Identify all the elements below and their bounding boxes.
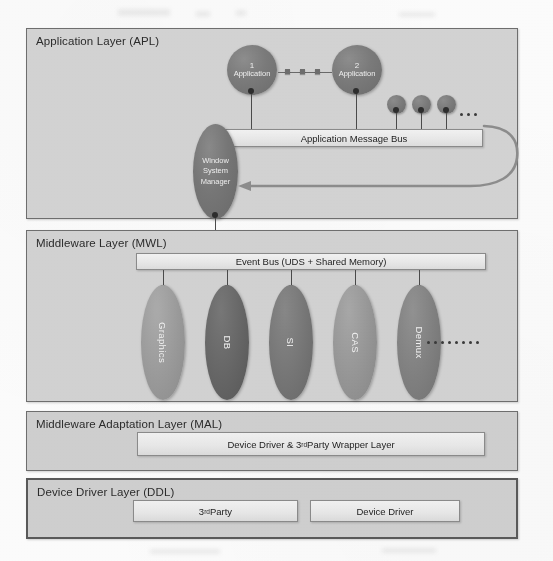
scan-artifact-smudge [382,548,436,553]
middleware-component-cas[interactable]: CAS [333,285,377,400]
connector-node-dot [212,212,218,218]
connector-stem [421,110,422,130]
ellipsis-dot [469,341,472,344]
connector-stem [446,110,447,130]
scan-artifact-smudge [399,12,435,17]
application-node-1-label: Application [234,70,271,79]
connector-stem [251,92,252,130]
connector-stem [356,92,357,130]
middleware-component-label: SI [286,338,297,348]
ellipsis-dot [441,341,444,344]
ellipsis-dot [448,341,451,344]
scan-artifact-smudge [196,11,210,17]
diagram-canvas: Application Layer (APL) 1 Application 2 … [0,0,553,561]
ellipsis-dot [476,341,479,344]
app-link-marker [315,69,320,74]
middleware-component-label: Graphics [158,322,169,363]
scan-artifact-smudge [150,549,220,554]
middleware-component-db[interactable]: DB [205,285,249,400]
connector-stem [396,110,397,130]
wrapper-label-post: Party Wrapper Layer [307,439,394,450]
middleware-layer-title: Middleware Layer (MWL) [36,237,167,249]
wrapper-label-pre: Device Driver & 3 [227,439,301,450]
connector-node-dot [418,107,424,113]
connector-node-dot [393,107,399,113]
connector-node-dot [353,88,359,94]
application-nodes-ellipsis [460,113,477,116]
ellipsis-dot [455,341,458,344]
application-node-2-label: Application [339,70,376,79]
middleware-component-si[interactable]: SI [269,285,313,400]
application-message-bus[interactable]: Application Message Bus [225,129,483,147]
third-party-label-post: Party [210,506,232,517]
ellipsis-dot [462,341,465,344]
wsm-line-2: System [203,166,228,176]
third-party-box[interactable]: 3rd Party [133,500,298,522]
middleware-component-label: CAS [349,332,360,353]
scan-artifact-smudge [118,9,170,16]
application-layer-title: Application Layer (APL) [36,35,159,47]
wsm-line-3: Manager [201,177,231,187]
middleware-components-ellipsis [427,341,479,344]
connector-node-dot [248,88,254,94]
event-bus[interactable]: Event Bus (UDS + Shared Memory) [136,253,486,270]
middleware-adaptation-layer-title: Middleware Adaptation Layer (MAL) [36,418,222,430]
connector-node-dot [443,107,449,113]
window-system-manager-node[interactable]: Window System Manager [193,124,238,219]
device-driver-layer-title: Device Driver Layer (DDL) [37,486,174,498]
ellipsis-dot [434,341,437,344]
ellipsis-dot [427,341,430,344]
app-link-marker [285,69,290,74]
middleware-component-label: Demux [414,326,425,358]
wsm-line-1: Window [202,156,229,166]
middleware-component-label: DB [222,336,233,350]
wrapper-layer-box[interactable]: Device Driver & 3rd Party Wrapper Layer [137,432,485,456]
app-link-marker [300,69,305,74]
device-driver-box[interactable]: Device Driver [310,500,460,522]
scan-artifact-smudge [236,10,246,16]
middleware-component-graphics[interactable]: Graphics [141,285,185,400]
